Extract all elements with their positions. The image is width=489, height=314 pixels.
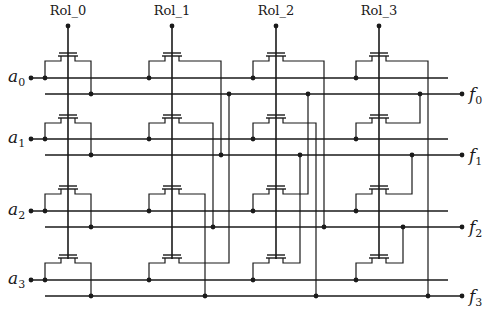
- circuit-wiring: [0, 0, 489, 314]
- source-leg: [356, 189, 372, 211]
- input-label-a1: a1: [8, 127, 25, 150]
- source-leg: [253, 118, 269, 139]
- source-junction: [251, 209, 256, 214]
- source-leg: [356, 118, 372, 139]
- source-leg: [253, 56, 269, 78]
- output-pin-f3: [460, 294, 465, 299]
- rol-pin-2: [274, 24, 279, 29]
- input-label-a3: a3: [8, 268, 25, 291]
- drain-junction: [219, 153, 224, 158]
- drain-junction: [89, 92, 94, 97]
- drain-junction: [89, 294, 94, 299]
- drain-leg: [75, 56, 91, 94]
- source-leg: [45, 258, 61, 280]
- output-label-f2: f2: [469, 217, 482, 240]
- column-label-rol-1: Rol_1: [154, 3, 191, 18]
- drain-leg: [283, 94, 308, 194]
- source-junction: [43, 209, 48, 214]
- drain-leg: [386, 155, 412, 194]
- source-junction: [251, 278, 256, 283]
- source-junction: [43, 76, 48, 81]
- column-label-rol-0: Rol_0: [50, 3, 87, 18]
- drain-leg: [386, 56, 428, 296]
- drain-junction: [89, 225, 94, 230]
- source-junction: [147, 209, 152, 214]
- source-leg: [45, 189, 61, 211]
- drain-leg: [283, 155, 300, 263]
- source-leg: [253, 189, 269, 211]
- column-label-rol-2: Rol_2: [258, 3, 295, 18]
- drain-junction: [418, 92, 423, 97]
- source-junction: [147, 76, 152, 81]
- drain-junction: [410, 153, 415, 158]
- drain-junction: [306, 92, 311, 97]
- drain-leg: [283, 56, 324, 227]
- output-label-f0: f0: [469, 84, 482, 107]
- input-label-a0: a0: [8, 66, 25, 89]
- source-junction: [43, 278, 48, 283]
- column-label-rol-3: Rol_3: [361, 3, 398, 18]
- input-pin-a2: [29, 209, 34, 214]
- drain-junction: [322, 225, 327, 230]
- source-junction: [354, 278, 359, 283]
- source-junction: [43, 137, 48, 142]
- source-leg: [149, 189, 165, 211]
- output-pin-f2: [460, 225, 465, 230]
- source-junction: [354, 137, 359, 142]
- output-label-f3: f3: [469, 286, 482, 309]
- source-leg: [45, 118, 61, 139]
- source-junction: [251, 137, 256, 142]
- source-junction: [147, 137, 152, 142]
- source-leg: [356, 56, 372, 78]
- source-junction: [354, 209, 359, 214]
- drain-junction: [298, 153, 303, 158]
- input-pin-a1: [29, 137, 34, 142]
- drain-junction: [227, 92, 232, 97]
- source-junction: [354, 76, 359, 81]
- drain-junction: [89, 153, 94, 158]
- drain-leg: [179, 56, 221, 155]
- source-junction: [147, 278, 152, 283]
- barrel-shifter-diagram: Rol_0 Rol_1 Rol_2 Rol_3 a0 a1 a2 a3 f0 f…: [0, 0, 489, 314]
- input-label-a2: a2: [8, 199, 25, 222]
- source-leg: [149, 56, 165, 78]
- rol-pin-3: [377, 24, 382, 29]
- drain-junction: [426, 294, 431, 299]
- rol-pin-0: [66, 24, 71, 29]
- input-pin-a0: [29, 76, 34, 81]
- drain-junction: [401, 225, 406, 230]
- source-leg: [253, 258, 269, 280]
- drain-junction: [211, 225, 216, 230]
- source-leg: [356, 258, 372, 280]
- drain-junction: [314, 294, 319, 299]
- rol-pin-1: [170, 24, 175, 29]
- drain-junction: [203, 294, 208, 299]
- source-leg: [149, 258, 165, 280]
- drain-leg: [386, 94, 420, 123]
- output-pin-f0: [460, 92, 465, 97]
- drain-leg: [75, 118, 91, 155]
- source-leg: [45, 56, 61, 78]
- input-pin-a3: [29, 278, 34, 283]
- source-leg: [149, 118, 165, 139]
- source-junction: [251, 76, 256, 81]
- drain-leg: [75, 258, 91, 296]
- output-label-f1: f1: [469, 145, 482, 168]
- drain-leg: [75, 189, 91, 227]
- output-pin-f1: [460, 153, 465, 158]
